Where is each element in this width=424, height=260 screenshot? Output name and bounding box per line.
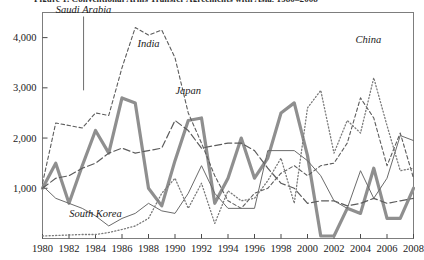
annotation-india: India (136, 38, 159, 49)
x-tick-label: 1980 (32, 243, 53, 254)
line-chart: 1,0002,0003,0004,000 1980198219841986198… (0, 0, 424, 260)
x-tick-label: 1992 (191, 243, 212, 254)
annotation-japan: Japan (175, 85, 201, 96)
x-tick-label: 1984 (85, 243, 107, 254)
x-tick-label: 2000 (297, 243, 318, 254)
x-axis-tick-labels: 1980198219841986198819901992199419961998… (32, 243, 424, 254)
x-tick-label: 1986 (112, 243, 133, 254)
x-tick-label: 2008 (403, 243, 424, 254)
x-tick-label: 2006 (377, 243, 398, 254)
x-tick-label: 1982 (59, 243, 80, 254)
x-tick-label: 1988 (138, 243, 159, 254)
x-tick-label: 1994 (218, 243, 240, 254)
y-tick-label: 2,000 (13, 133, 37, 144)
x-tick-label: 1990 (165, 243, 186, 254)
x-tick-label: 1998 (271, 243, 292, 254)
annotation-china: China (356, 34, 382, 45)
x-tick-label: 1996 (244, 243, 265, 254)
annotation-saudi-arabia: Saudi Arabia (56, 4, 112, 15)
figure-title-cut-off: Figure 1. Conventional Arms Transfer Agr… (34, 0, 414, 2)
y-tick-label: 1,000 (13, 183, 37, 194)
y-tick-label: 3,000 (13, 82, 37, 93)
y-tick-label: 4,000 (13, 32, 37, 43)
annotation-south-korea: South Korea (69, 208, 121, 219)
figure-container: Figure 1. Conventional Arms Transfer Agr… (0, 0, 424, 260)
x-tick-label: 2002 (324, 243, 345, 254)
x-tick-label: 2004 (350, 243, 372, 254)
